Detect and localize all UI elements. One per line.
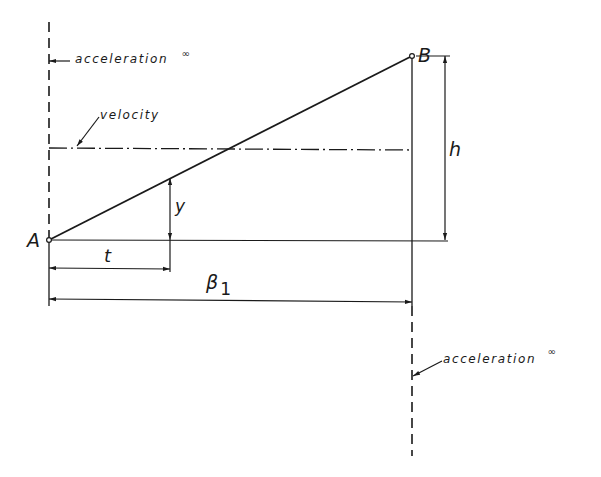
velocity-leader [77, 117, 99, 146]
acceleration-bottom-label: acceleration ∞ [443, 352, 557, 366]
y-label: y [175, 196, 185, 216]
point-a-label: A [27, 229, 40, 251]
beta1-label: β1 [206, 271, 231, 293]
diagram-drawing [0, 0, 601, 477]
infinity-bottom-icon: ∞ [548, 346, 558, 357]
point-a-marker [47, 238, 52, 243]
acceleration-top-text: acceleration [75, 52, 168, 66]
diagram-canvas: acceleration ∞ velocity acceleration ∞ A… [0, 0, 601, 477]
acceleration-bottom-leader [413, 361, 442, 376]
h-label: h [449, 138, 461, 160]
beta-dimension-line [49, 299, 412, 302]
infinity-top-icon: ∞ [182, 48, 192, 59]
t-dimension-line [49, 268, 170, 269]
ramp-line [51, 57, 410, 239]
baseline [51, 240, 448, 241]
acceleration-top-label: acceleration ∞ [75, 52, 191, 66]
t-label: t [104, 245, 111, 266]
beta-text: β [206, 271, 218, 293]
beta-subscript: 1 [220, 279, 231, 299]
point-b-label: B [418, 44, 431, 66]
point-b-marker [410, 54, 415, 59]
velocity-text: velocity [100, 108, 160, 122]
velocity-label: velocity [100, 108, 160, 122]
acceleration-bottom-text: acceleration [443, 352, 536, 366]
